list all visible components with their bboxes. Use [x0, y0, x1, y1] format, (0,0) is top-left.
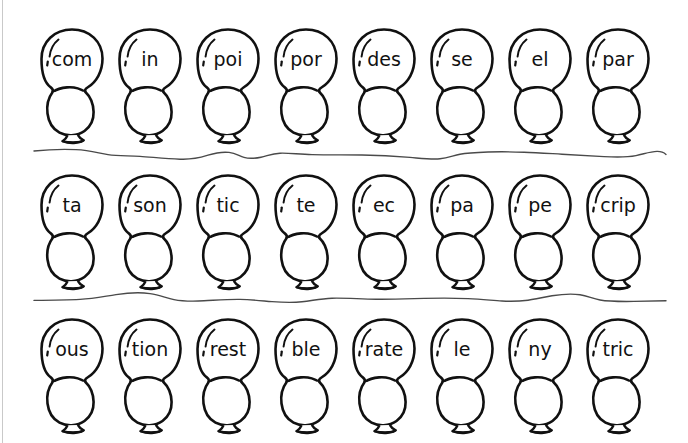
cut-line-2	[0, 287, 688, 311]
balloon-outline-icon	[36, 172, 108, 292]
balloon-outline-icon	[426, 26, 498, 146]
balloon-label: te	[270, 194, 342, 216]
balloon[interactable]: ble	[270, 316, 342, 436]
balloon[interactable]: ous	[36, 316, 108, 436]
balloon[interactable]: des	[348, 26, 420, 146]
balloon-label: el	[504, 48, 576, 70]
balloon[interactable]: ta	[36, 172, 108, 292]
cut-line-1	[0, 142, 688, 166]
balloon[interactable]: pa	[426, 172, 498, 292]
balloon[interactable]: le	[426, 316, 498, 436]
balloon[interactable]: tion	[114, 316, 186, 436]
balloon-label: tric	[582, 338, 654, 360]
balloon[interactable]: rest	[192, 316, 264, 436]
balloon-label: le	[426, 338, 498, 360]
balloon-outline-icon	[426, 316, 498, 436]
balloon-label: por	[270, 48, 342, 70]
balloon-outline-icon	[192, 316, 264, 436]
balloon[interactable]: te	[270, 172, 342, 292]
balloon-row-2: ta son tic te ec pa	[0, 172, 688, 292]
balloon-label: pe	[504, 194, 576, 216]
balloon-label: com	[36, 48, 108, 70]
balloon-outline-icon	[270, 26, 342, 146]
balloon-label: rate	[348, 338, 420, 360]
balloon-outline-icon	[582, 26, 654, 146]
balloon[interactable]: son	[114, 172, 186, 292]
balloon[interactable]: poi	[192, 26, 264, 146]
balloon[interactable]: rate	[348, 316, 420, 436]
balloon[interactable]: por	[270, 26, 342, 146]
balloon-label: rest	[192, 338, 264, 360]
balloon-label: se	[426, 48, 498, 70]
balloon-outline-icon	[36, 26, 108, 146]
balloon-outline-icon	[192, 172, 264, 292]
balloon-outline-icon	[348, 316, 420, 436]
balloon-label: tion	[114, 338, 186, 360]
balloon[interactable]: pe	[504, 172, 576, 292]
balloon-label: ec	[348, 194, 420, 216]
balloon-row-1: com in poi por des se	[0, 26, 688, 146]
balloon[interactable]: tric	[582, 316, 654, 436]
balloon-label: ble	[270, 338, 342, 360]
balloon-label: pa	[426, 194, 498, 216]
balloon-outline-icon	[270, 316, 342, 436]
balloon-outline-icon	[270, 172, 342, 292]
balloon-label: ny	[504, 338, 576, 360]
balloon-label: des	[348, 48, 420, 70]
balloon[interactable]: tic	[192, 172, 264, 292]
balloon-outline-icon	[348, 26, 420, 146]
balloon-label: ous	[36, 338, 108, 360]
balloon[interactable]: el	[504, 26, 576, 146]
balloon[interactable]: ny	[504, 316, 576, 436]
balloon-outline-icon	[114, 26, 186, 146]
balloon[interactable]: in	[114, 26, 186, 146]
balloon-row-3: ous tion rest ble rate le	[0, 316, 688, 436]
balloon-outline-icon	[426, 172, 498, 292]
balloon-outline-icon	[114, 316, 186, 436]
balloon-outline-icon	[582, 316, 654, 436]
balloon-label: tic	[192, 194, 264, 216]
balloon-outline-icon	[504, 172, 576, 292]
balloon[interactable]: crip	[582, 172, 654, 292]
balloon[interactable]: par	[582, 26, 654, 146]
worksheet-page: com in poi por des se	[0, 0, 688, 443]
balloon-label: son	[114, 194, 186, 216]
balloon-outline-icon	[36, 316, 108, 436]
balloon-outline-icon	[348, 172, 420, 292]
balloon[interactable]: se	[426, 26, 498, 146]
balloon-label: par	[582, 48, 654, 70]
balloon-outline-icon	[582, 172, 654, 292]
balloon-outline-icon	[504, 26, 576, 146]
balloon[interactable]: ec	[348, 172, 420, 292]
balloon-label: ta	[36, 194, 108, 216]
balloon-label: crip	[582, 194, 654, 216]
balloon-outline-icon	[504, 316, 576, 436]
balloon-outline-icon	[114, 172, 186, 292]
balloon-outline-icon	[192, 26, 264, 146]
balloon-label: poi	[192, 48, 264, 70]
balloon-label: in	[114, 48, 186, 70]
balloon[interactable]: com	[36, 26, 108, 146]
